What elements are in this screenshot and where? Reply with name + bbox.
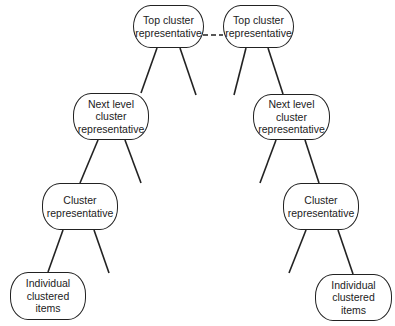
node-label: Cluster xyxy=(63,194,96,207)
next-level-node-right: Next level cluster representative xyxy=(253,94,330,140)
node-label: Cluster xyxy=(304,194,337,207)
cluster-node-left: Cluster representative xyxy=(42,183,118,230)
node-label: clustered xyxy=(332,291,375,304)
top-cluster-node-left: Top cluster representative xyxy=(133,5,204,48)
cluster-node-right: Cluster representative xyxy=(283,183,359,230)
node-label: representative xyxy=(47,207,114,220)
node-label: representative xyxy=(288,207,355,220)
node-label: Top cluster xyxy=(143,14,194,27)
node-label: representative xyxy=(135,27,202,40)
node-label: items xyxy=(35,302,60,315)
next-level-node-left: Next level cluster representative xyxy=(73,93,149,140)
node-label: clustered xyxy=(27,290,70,303)
node-label: representative xyxy=(258,123,325,136)
node-label: representative xyxy=(78,123,145,136)
node-label: representative xyxy=(225,27,292,40)
node-label: Individual xyxy=(331,279,375,292)
node-label: Top cluster xyxy=(233,14,284,27)
items-node-left: Individual clustered items xyxy=(10,272,86,320)
node-label: Next level cluster xyxy=(74,98,148,123)
node-label: Individual xyxy=(26,277,70,290)
node-label: items xyxy=(341,304,366,317)
items-node-right: Individual clustered items xyxy=(315,274,392,321)
top-cluster-node-right: Top cluster representative xyxy=(223,5,294,48)
node-label: Next level cluster xyxy=(254,98,329,123)
